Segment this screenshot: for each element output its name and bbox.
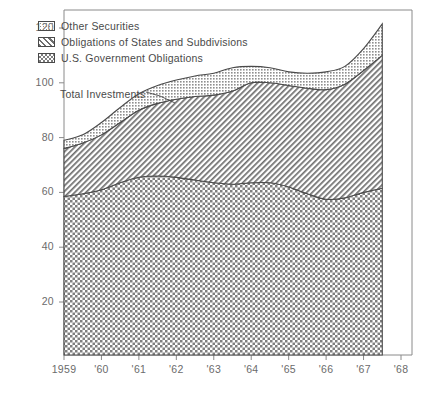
y-axis-tick-label: 40	[20, 240, 54, 252]
legend-label: Other Securities	[61, 20, 139, 32]
y-axis-tick-label: 60	[20, 185, 54, 197]
y-axis-ticks	[59, 28, 64, 302]
x-axis-tick-label: '68	[381, 363, 421, 375]
legend-label: U.S. Government Obligations	[61, 52, 203, 64]
x-axis-tick-label: '64	[231, 363, 271, 375]
chart-figure: 12010080604020 1959'60'61'62'63'64'65'66…	[0, 0, 424, 396]
legend-swatch-icon	[38, 53, 55, 63]
y-axis-tick-label: 100	[20, 76, 54, 88]
y-axis-tick-label: 20	[20, 295, 54, 307]
legend-label: Obligations of States and Subdivisions	[61, 36, 248, 48]
x-axis-tick-label: '61	[119, 363, 159, 375]
legend-swatch-icon	[38, 37, 55, 47]
x-axis-tick-label: '65	[269, 363, 309, 375]
x-axis-ticks	[64, 355, 401, 360]
legend-item: Other Securities	[38, 20, 139, 32]
x-axis-tick-label: 1959	[44, 363, 84, 375]
x-axis-tick-label: '63	[194, 363, 234, 375]
x-axis-tick-label: '62	[156, 363, 196, 375]
area-band-us-government-obligations	[64, 176, 382, 355]
x-axis-tick-label: '67	[344, 363, 384, 375]
x-axis-tick-label: '60	[81, 363, 121, 375]
legend-swatch-icon	[38, 21, 55, 31]
legend-item: U.S. Government Obligations	[38, 52, 203, 64]
total-investments-annotation: Total Investments	[60, 88, 145, 100]
legend-item: Obligations of States and Subdivisions	[38, 36, 248, 48]
x-axis-tick-label: '66	[306, 363, 346, 375]
y-axis-tick-label: 80	[20, 131, 54, 143]
